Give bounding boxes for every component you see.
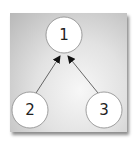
node-2: 2 bbox=[12, 92, 48, 128]
node-3: 3 bbox=[86, 92, 122, 128]
node-1: 1 bbox=[46, 17, 82, 53]
node-1-label: 1 bbox=[59, 26, 69, 44]
tree-diagram: 1 2 3 bbox=[0, 0, 139, 143]
edge-3-to-1 bbox=[68, 56, 98, 93]
node-2-label: 2 bbox=[25, 101, 35, 119]
node-3-label: 3 bbox=[99, 101, 109, 119]
edge-2-to-1 bbox=[36, 56, 60, 93]
